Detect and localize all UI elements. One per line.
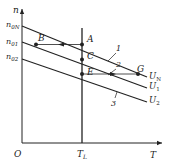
voltage-label-U2: U2 xyxy=(149,95,160,106)
label-E: E xyxy=(86,67,94,77)
leader-1 xyxy=(108,53,116,61)
y-axis-label: n xyxy=(13,5,19,15)
arrow-head-A-B xyxy=(58,43,64,47)
curve-number-2: 2 xyxy=(115,60,121,69)
origin-label: O xyxy=(14,149,22,159)
leader-3 xyxy=(115,92,117,98)
y-tick-n02: n02 xyxy=(6,52,19,62)
curve-number-1: 1 xyxy=(116,44,121,53)
point-A xyxy=(80,43,84,47)
point-B xyxy=(34,43,38,47)
voltage-label-U1: U1 xyxy=(149,81,160,92)
point-C xyxy=(80,58,84,62)
point-E xyxy=(80,72,84,76)
voltage-label-UN: UN xyxy=(149,71,161,82)
speed-torque-diagram: n T O n0N n01 n02 TL A B C E G 1 2 3 UN … xyxy=(0,0,172,161)
x-axis-label: T xyxy=(150,150,157,160)
label-A: A xyxy=(86,34,94,44)
x-tick-TL: TL xyxy=(77,149,87,160)
y-tick-n0N: n0N xyxy=(6,20,20,30)
label-B: B xyxy=(37,33,45,43)
label-G: G xyxy=(137,64,144,74)
label-C: C xyxy=(87,51,94,61)
curve-number-3: 3 xyxy=(111,99,116,108)
y-tick-n01: n01 xyxy=(6,37,18,47)
